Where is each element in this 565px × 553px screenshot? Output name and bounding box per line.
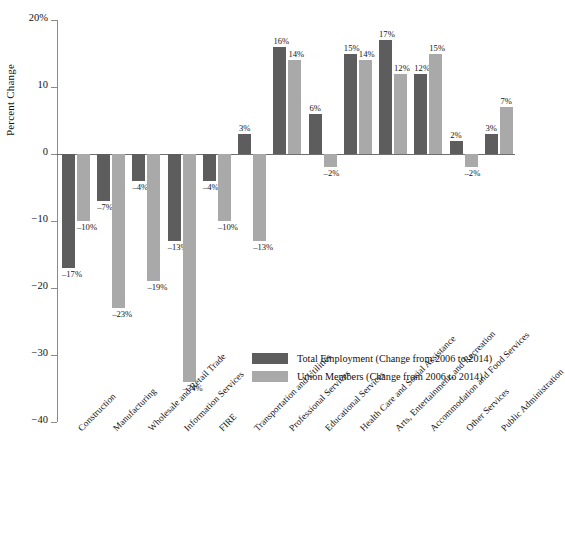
y-tick-label: 10: [38, 79, 49, 90]
bar[interactable]: [147, 154, 160, 281]
bar-value-label: 16%: [273, 36, 286, 46]
legend-label: Total Employment (Change from 2006 to 20…: [297, 353, 492, 364]
bar-value-label: 14%: [288, 49, 301, 59]
chart-legend: Total Employment (Change from 2006 to 20…: [252, 353, 492, 389]
bar[interactable]: [183, 154, 196, 382]
legend-item[interactable]: Union Members (Change from 2006 to 2014): [252, 371, 492, 382]
y-tick-label: −40: [32, 414, 48, 425]
bar[interactable]: [465, 154, 478, 167]
bar[interactable]: [168, 154, 181, 241]
bar[interactable]: [97, 154, 110, 201]
bar-value-label: 7%: [500, 96, 513, 106]
y-tick-mark: [51, 20, 57, 21]
bar[interactable]: [77, 154, 90, 221]
bar-value-label: –13%: [168, 242, 181, 252]
bar-value-label: –4%: [203, 182, 216, 192]
bar-value-label: 3%: [238, 123, 251, 133]
bar[interactable]: [450, 141, 463, 154]
bar[interactable]: [324, 154, 337, 167]
bar[interactable]: [359, 60, 372, 154]
y-tick-label: 20%: [29, 12, 48, 23]
y-tick-label: −10: [32, 213, 48, 224]
bar[interactable]: [429, 54, 442, 155]
bar[interactable]: [132, 154, 145, 181]
bar-value-label: –2%: [324, 168, 337, 178]
y-axis-spine: [57, 20, 58, 422]
bar-value-label: 15%: [344, 43, 357, 53]
bar-value-label: –17%: [62, 269, 75, 279]
bar[interactable]: [238, 134, 251, 154]
bar[interactable]: [253, 154, 266, 241]
bar-value-label: 12%: [414, 63, 427, 73]
bar-value-label: –10%: [77, 222, 90, 232]
legend-swatch: [252, 353, 288, 364]
bar[interactable]: [485, 134, 498, 154]
y-axis-title: Percent Change: [4, 30, 16, 170]
bar-value-label: 2%: [450, 130, 463, 140]
bar[interactable]: [218, 154, 231, 221]
bar-value-label: 14%: [359, 49, 372, 59]
y-tick-label: 0: [43, 146, 48, 157]
y-tick-mark: [51, 355, 57, 356]
bar-value-label: –7%: [97, 202, 110, 212]
y-tick-mark: [51, 288, 57, 289]
legend-item[interactable]: Total Employment (Change from 2006 to 20…: [252, 353, 492, 364]
legend-label: Union Members (Change from 2006 to 2014): [297, 371, 483, 382]
bar-value-label: –23%: [112, 309, 125, 319]
bar[interactable]: [500, 107, 513, 154]
y-tick-mark: [51, 422, 57, 423]
bar-value-label: 3%: [485, 123, 498, 133]
bar[interactable]: [112, 154, 125, 308]
y-tick-label: −30: [32, 347, 48, 358]
legend-swatch: [252, 371, 288, 382]
bar[interactable]: [344, 54, 357, 155]
y-tick-mark: [51, 87, 57, 88]
bar-value-label: –4%: [132, 182, 145, 192]
bar[interactable]: [203, 154, 216, 181]
bar-value-label: –2%: [465, 168, 478, 178]
y-tick-mark: [51, 154, 57, 155]
bar[interactable]: [273, 47, 286, 154]
bar[interactable]: [62, 154, 75, 268]
bar-value-label: 6%: [309, 103, 322, 113]
bar[interactable]: [288, 60, 301, 154]
zero-baseline: [57, 154, 515, 155]
bar-value-label: –10%: [218, 222, 231, 232]
bar-value-label: –13%: [253, 242, 266, 252]
y-tick-label: −20: [32, 280, 48, 291]
bar[interactable]: [414, 74, 427, 154]
y-tick-mark: [51, 221, 57, 222]
bar[interactable]: [394, 74, 407, 154]
bar-value-label: –19%: [147, 282, 160, 292]
bar-value-label: 12%: [394, 63, 407, 73]
bar-value-label: 17%: [379, 29, 392, 39]
bar[interactable]: [379, 40, 392, 154]
bar[interactable]: [309, 114, 322, 154]
bar-value-label: 15%: [429, 43, 442, 53]
